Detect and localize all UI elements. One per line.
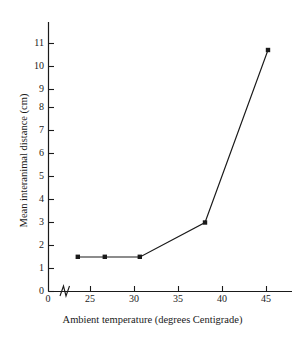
- x-tick-label-45: 45: [255, 294, 277, 304]
- axis-break-icon: [60, 286, 70, 296]
- x-axis-title: Ambient temperature (degrees Centigrade): [0, 314, 305, 325]
- data-point: [203, 220, 207, 224]
- y-axis-ticks: [49, 44, 55, 292]
- x-axis-ticks: [91, 286, 267, 292]
- y-axis-title: Mean interanimal distance (cm): [18, 46, 29, 276]
- x-tick-label-30: 30: [123, 294, 145, 304]
- x-tick-label-0: 0: [37, 294, 59, 304]
- x-tick-label-35: 35: [167, 294, 189, 304]
- x-tick-label-40: 40: [211, 294, 233, 304]
- data-point: [266, 48, 270, 52]
- data-point: [138, 255, 142, 259]
- data-point: [103, 255, 107, 259]
- data-line-series-1: [78, 50, 268, 257]
- chart-plot-area: [0, 0, 305, 338]
- chart-figure: 11 10 9 8 7 6 5 4 3 2 1 0 0 25 30 35 40 …: [0, 0, 305, 338]
- x-tick-label-25: 25: [79, 294, 101, 304]
- data-point-markers: [76, 48, 271, 259]
- data-point: [76, 255, 80, 259]
